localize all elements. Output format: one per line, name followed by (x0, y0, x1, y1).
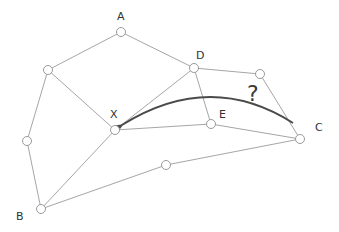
edges (27, 32, 300, 209)
node-label-B: B (16, 210, 24, 223)
node-D (190, 64, 199, 73)
node-E (207, 120, 216, 129)
node-label-D: D (196, 49, 204, 62)
node-label-A: A (117, 10, 125, 23)
node-n4 (162, 161, 171, 170)
node-label-C: C (315, 121, 323, 134)
node-A (117, 28, 126, 37)
edge-n1-n3 (27, 70, 48, 141)
edge-D-n2 (194, 68, 260, 74)
node-n1 (44, 66, 53, 75)
node-X (111, 126, 120, 135)
edge-B-n4 (41, 165, 166, 209)
graph-canvas: ADXECB ? (0, 0, 339, 232)
node-B (37, 205, 46, 214)
edge-n4-C (166, 139, 300, 165)
edge-n1-X (48, 70, 115, 130)
node-labels: ADXECB (16, 10, 323, 223)
node-n3 (23, 137, 32, 146)
node-label-E: E (219, 108, 226, 121)
question-mark: ? (247, 81, 259, 106)
edge-A-n1 (48, 32, 121, 70)
graph-diagram: ADXECB ? (0, 0, 339, 232)
edge-E-C (211, 124, 300, 139)
nodes (23, 28, 305, 214)
edge-n2-C (260, 74, 300, 139)
edge-A-D (121, 32, 194, 68)
node-n2 (256, 70, 265, 79)
node-label-X: X (110, 108, 118, 121)
edge-B-X (41, 130, 115, 209)
edge-n3-B (27, 141, 41, 209)
edge-X-E (115, 124, 211, 130)
node-C (296, 135, 305, 144)
